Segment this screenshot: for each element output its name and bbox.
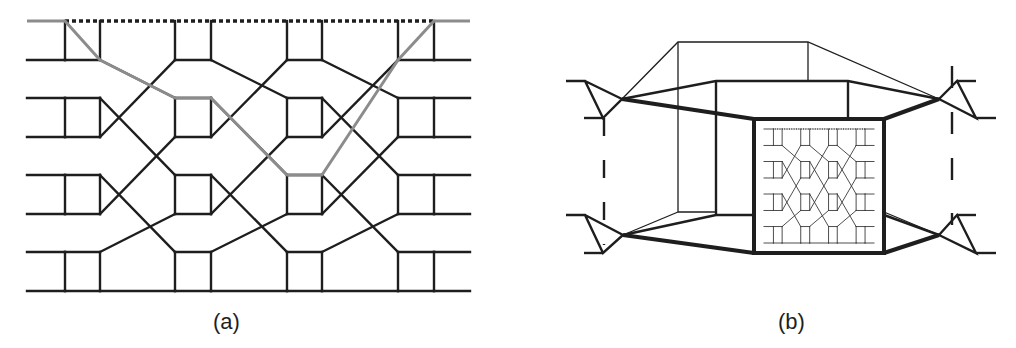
- panel-a-network: [27, 21, 470, 291]
- panel-a-caption: (a): [213, 311, 240, 333]
- panel-b-caption: (b): [778, 311, 805, 333]
- network-figure: [0, 0, 1016, 348]
- outer-thin-frame: [622, 42, 939, 235]
- inner-bold-square: [622, 99, 939, 253]
- middle-frame: [622, 81, 939, 235]
- right-connectors: [939, 81, 996, 253]
- left-connectors: [566, 81, 623, 253]
- mini-network: [764, 129, 874, 243]
- panel-b-recursive-network: [566, 42, 996, 253]
